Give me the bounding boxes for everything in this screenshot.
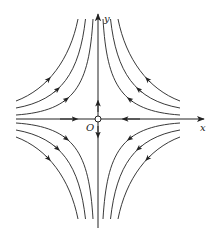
x-axis-label: x [200, 122, 206, 133]
trajectory-upper-left-3 [16, 19, 78, 101]
arrow-lower-left-1 [63, 136, 67, 139]
origin-label: O [86, 122, 94, 133]
arrow-lower-right-1 [129, 136, 133, 139]
phase-portrait-canvas: y x O [0, 0, 218, 238]
y-axis-label: y [103, 13, 110, 24]
axes [16, 14, 204, 228]
trajectory-lower-left-3 [16, 137, 78, 219]
trajectory-upper-right-1 [103, 19, 180, 115]
arrow-upper-right-3 [147, 79, 150, 82]
arrow-upper-left-2 [54, 89, 57, 92]
trajectory-lower-right-3 [118, 137, 180, 219]
arrow-lower-right-3 [147, 156, 150, 159]
arrow-upper-left-3 [46, 79, 49, 82]
trajectory-lower-right-1 [103, 123, 180, 219]
trajectory-upper-right-3 [118, 19, 180, 101]
arrow-lower-left-2 [54, 146, 57, 149]
arrow-upper-right-2 [138, 89, 141, 92]
arrow-upper-right-1 [129, 99, 133, 102]
trajectory-upper-left-1 [16, 19, 93, 115]
arrow-upper-left-1 [63, 99, 67, 102]
arrow-lower-left-3 [46, 156, 49, 159]
saddle-phase-portrait: y x O [0, 0, 218, 238]
origin-point [95, 116, 101, 122]
trajectory-lower-left-1 [16, 123, 93, 219]
arrow-lower-right-2 [138, 146, 141, 149]
